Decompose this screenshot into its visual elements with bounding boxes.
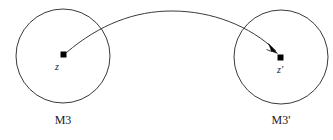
mapping-diagram-figure: z z' M3 M3'	[0, 0, 333, 140]
source-region-label: M3	[55, 113, 72, 127]
diagram-canvas: z z' M3 M3'	[0, 0, 333, 140]
source-point-label: z	[54, 61, 59, 72]
target-point-label: z'	[276, 64, 284, 75]
source-point-marker	[61, 52, 67, 58]
target-point-marker	[278, 55, 284, 61]
target-region-label: M3'	[272, 113, 291, 127]
